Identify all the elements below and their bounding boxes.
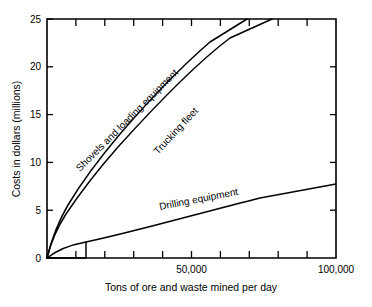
x-axis-ticks-bottom (76, 251, 307, 258)
y-tick-label-25: 25 (30, 14, 42, 25)
y-axis-ticks-right (330, 67, 336, 210)
y-tick-label-10: 10 (30, 157, 42, 168)
x-axis-title: Tons of ore and waste mined per day (105, 281, 278, 293)
series-label-drilling-equipment: Drilling equipment (158, 186, 239, 212)
drilling-equipment-origin-tail (47, 242, 86, 258)
x-axis-tick-labels: 50,000 100,000 (176, 264, 354, 275)
x-axis-ticks-top (76, 19, 307, 26)
y-tick-label-5: 5 (35, 205, 41, 216)
y-axis-ticks (47, 19, 53, 258)
chart-figure: 0 5 10 15 20 25 (0, 0, 372, 307)
y-tick-label-0: 0 (35, 253, 41, 264)
y-tick-label-15: 15 (30, 109, 42, 120)
chart-svg: 0 5 10 15 20 25 (0, 0, 372, 307)
series-line-shovels-and-loading-equipment (47, 19, 247, 258)
y-axis-title: Costs in dollars (millions) (10, 81, 22, 198)
x-tick-label-100000: 100,000 (318, 264, 355, 275)
x-tick-label-50000: 50,000 (176, 264, 207, 275)
y-axis-tick-labels: 0 5 10 15 20 25 (30, 14, 42, 264)
y-tick-label-20: 20 (30, 61, 42, 72)
series-label-shovels-and-loading-equipment: Shovels and loading equipment (74, 67, 181, 174)
series-label-trucking-fleet: Trucking fleet (151, 105, 200, 156)
series-line-trucking-fleet (47, 19, 272, 258)
plot-frame (47, 19, 336, 258)
